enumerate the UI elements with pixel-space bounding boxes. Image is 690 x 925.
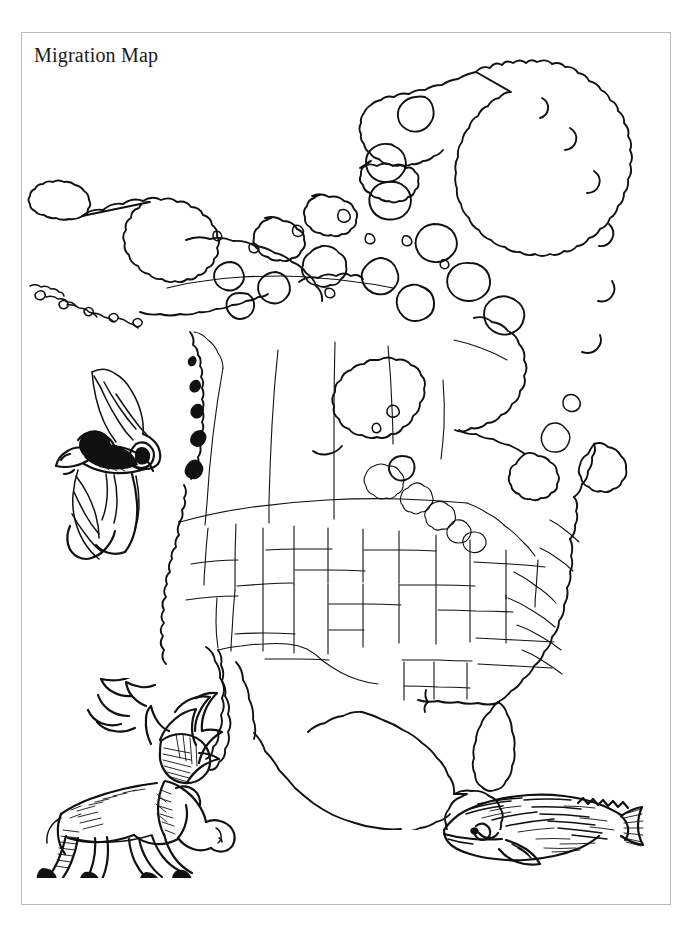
- caribou-illustration: [33, 678, 238, 878]
- bat-illustration: [48, 358, 176, 570]
- worksheet-page: Migration Map: [0, 0, 690, 925]
- whale-illustration: [432, 782, 654, 870]
